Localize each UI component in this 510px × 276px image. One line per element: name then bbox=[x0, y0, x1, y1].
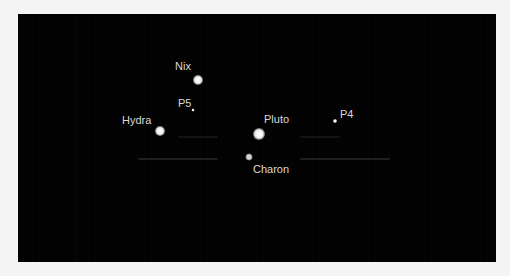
streak-left-2 bbox=[178, 136, 218, 138]
moon-p5-dot bbox=[192, 109, 195, 112]
streak-left bbox=[138, 158, 218, 160]
moon-charon-dot bbox=[246, 154, 253, 161]
moon-nix-label: Nix bbox=[175, 61, 191, 72]
planet-pluto-dot bbox=[253, 128, 265, 140]
pluto-system-image: Nix P5 Hydra Pluto Charon P4 bbox=[18, 14, 496, 262]
moon-p4-dot bbox=[333, 119, 337, 123]
moon-hydra-label: Hydra bbox=[122, 115, 151, 126]
streak-right bbox=[300, 158, 390, 160]
moon-hydra-dot bbox=[155, 126, 165, 136]
moon-p4-label: P4 bbox=[340, 109, 353, 120]
moon-charon-label: Charon bbox=[253, 164, 289, 175]
planet-pluto-label: Pluto bbox=[264, 114, 289, 125]
streak-right-2 bbox=[300, 136, 340, 138]
moon-p5-label: P5 bbox=[178, 98, 191, 109]
moon-nix-dot bbox=[193, 75, 203, 85]
